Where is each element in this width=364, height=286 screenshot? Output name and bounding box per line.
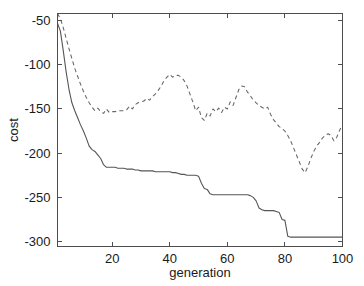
y-tick-label: -300: [24, 234, 50, 249]
chart-plot-svg: -50-100-150-200-250-300 20406080100 cost…: [0, 0, 364, 286]
chart-figure: -50-100-150-200-250-300 20406080100 cost…: [0, 0, 364, 286]
x-tick-label: 40: [163, 251, 177, 266]
chart-series-group: [58, 14, 343, 238]
y-tick-label: -200: [24, 146, 50, 161]
x-tick-label: 60: [220, 251, 234, 266]
y-tick-label: -150: [24, 101, 50, 116]
y-axis-title: cost: [6, 118, 21, 142]
x-tick-label: 20: [105, 251, 119, 266]
plot-frame: [58, 14, 343, 247]
y-tick-label: -250: [24, 190, 50, 205]
y-tick-label: -100: [24, 57, 50, 72]
axis-tick-marks: [58, 14, 343, 247]
series-line-solid: [58, 23, 343, 237]
series-line-dashed: [58, 14, 343, 173]
x-tick-label: 100: [332, 251, 354, 266]
x-axis-title: generation: [169, 265, 230, 280]
y-tick-label: -50: [32, 13, 51, 28]
y-axis-tick-labels: -50-100-150-200-250-300: [24, 13, 50, 249]
x-tick-label: 80: [278, 251, 292, 266]
x-axis-tick-labels: 20406080100: [105, 251, 353, 266]
